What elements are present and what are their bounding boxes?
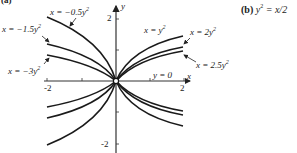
- y-tick-neg-2: -2: [101, 140, 109, 149]
- curve-1: [116, 36, 183, 81]
- origin-open-point: [113, 78, 118, 83]
- curve-label-neg-1.5: x = −1.5y2: [2, 25, 41, 34]
- x-axis-note: y = 0: [153, 71, 172, 80]
- x-axis-label: x: [187, 72, 191, 81]
- curve-1-mirror: [116, 81, 183, 126]
- curve-neg-1.5-mirror: [47, 81, 116, 118]
- y-tick-2: 2: [107, 14, 112, 23]
- curve-label-2.5: x = 2.5y2: [196, 61, 229, 70]
- panel-b-heading: (b) y2 = x/2: [241, 5, 287, 15]
- curve-neg-0.5-mirror: [47, 81, 116, 145]
- panel-b-exp: 2: [260, 3, 263, 9]
- curve-label-neg-0.5: x = −0.5y2: [50, 8, 89, 17]
- curve-label-1: x = y2: [144, 26, 166, 35]
- x-tick-2: 2: [180, 84, 185, 93]
- y-axis-label: y: [121, 2, 125, 11]
- parabola-family-diagram: (a) (b) y2 = x/2 y x 2 -2 -2 2 y = 0 x =…: [0, 0, 297, 153]
- x-tick-neg-2: -2: [44, 84, 52, 93]
- panel-a-label: (a): [1, 0, 12, 5]
- curve-label-2: x = 2y2: [190, 28, 216, 37]
- panel-b-label: (b): [241, 4, 253, 15]
- panel-b-rhs: = x/2: [263, 4, 287, 15]
- plot-canvas: [0, 0, 297, 153]
- curve-label-neg-3: x = −3y2: [8, 67, 40, 76]
- curve-neg-1.5: [47, 44, 116, 81]
- curve-neg-0.5: [47, 17, 116, 81]
